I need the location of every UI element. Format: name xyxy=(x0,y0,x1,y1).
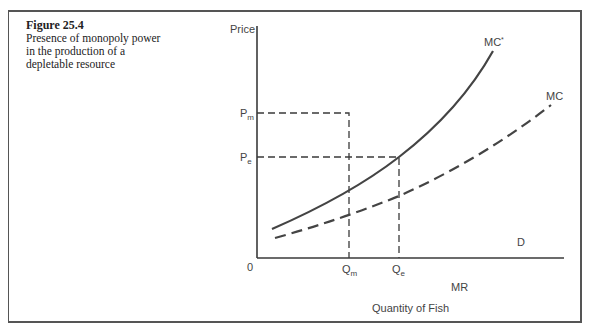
mc-label: MC xyxy=(546,90,563,102)
mc-star-curve xyxy=(272,51,493,229)
mc-curve xyxy=(275,105,551,238)
x-axis-label: Quantity of Fish xyxy=(372,302,449,314)
mr-label: MR xyxy=(451,281,468,293)
qe-label: Qe xyxy=(392,263,406,278)
origin-label: 0 xyxy=(247,261,253,273)
qm-label: Qm xyxy=(342,263,358,278)
mc-star-label: MC* xyxy=(484,36,504,48)
pm-label: Pm xyxy=(240,107,254,122)
demand-label: D xyxy=(517,236,525,248)
monopoly-chart: Price Pm Pe 0 Qm Qe MC* MC D MR Quantity… xyxy=(0,0,590,330)
pe-label: Pe xyxy=(240,151,252,166)
y-axis-label: Price xyxy=(230,23,255,35)
pm-qm-guide xyxy=(257,113,349,258)
